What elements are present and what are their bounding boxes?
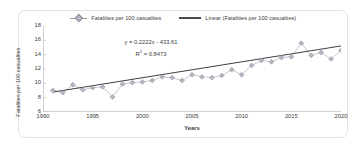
data-point-marker [319,50,324,55]
x-tick-label: 2010 [235,114,248,120]
legend-label-trendline: Linear (Fatalities per 100 casualties) [205,15,296,21]
x-tick-label: 1995 [86,114,99,120]
x-tick-label: 2020 [335,114,348,120]
data-point-marker [180,78,185,83]
equation-text: y = 0.2222x - 433.61 [95,38,207,47]
data-point-marker [80,87,85,92]
x-axis-tick-labels: 1990199520002005201020152020 [43,114,341,124]
data-point-marker [140,80,145,85]
chart-screenshot: Fatalities per 100 casualties Linear (Fa… [0,0,364,148]
legend-item-trendline: Linear (Fatalities per 100 casualties) [179,15,296,21]
y-axis-tick-labels: 181614121086 [24,26,42,112]
y-tick-label: 10 [35,80,41,86]
legend-marker-diamond-icon [70,15,88,21]
y-axis-title-text: Fatalities per 100 casualties [15,47,21,116]
data-point-marker [269,59,274,64]
x-tick-label: 1990 [37,114,50,120]
y-tick-label: 18 [35,23,41,29]
data-point-marker [219,73,224,78]
data-point-marker [170,75,175,80]
chart-legend: Fatalities per 100 casualties Linear (Fa… [18,11,348,25]
legend-line-icon [179,17,201,18]
r-squared-text: R2 = 0.8473 [95,47,207,59]
data-point-marker [190,72,195,77]
y-tick-label: 14 [35,52,41,58]
x-axis-title: Years [43,125,341,131]
data-point-marker [150,78,155,83]
legend-label-series: Fatalities per 100 casualties [91,15,161,21]
y-axis-title: Fatalities per 100 casualties [12,30,24,134]
data-point-marker [130,80,135,85]
y-tick-label: 12 [35,66,41,72]
data-point-marker [229,67,234,72]
data-point-marker [200,74,205,79]
legend-item-series: Fatalities per 100 casualties [70,15,162,21]
x-tick-label: 2005 [186,114,199,120]
data-point-marker [209,75,214,80]
y-tick-label: 16 [35,37,41,43]
trendline-annotation: y = 0.2222x - 433.61 R2 = 0.8473 [95,38,207,59]
y-tick-label: 8 [38,95,41,101]
x-tick-label: 2015 [285,114,298,120]
x-tick-label: 2000 [136,114,149,120]
